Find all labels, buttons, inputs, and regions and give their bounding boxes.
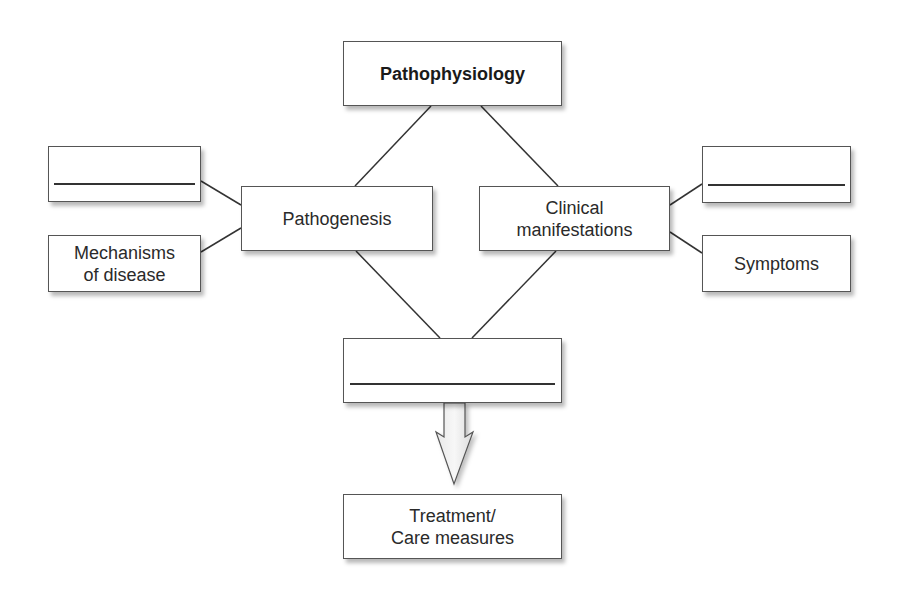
edge-pathophysiology-pathogenesis [355, 106, 431, 186]
mechanisms-label-line1: Mechanisms [74, 242, 175, 264]
right-blank-box [702, 146, 851, 203]
clinical-manifestations-box: Clinical manifestations [479, 186, 670, 251]
treatment-care-measures-box: Treatment/ Care measures [343, 494, 562, 559]
edge-clinical-symptoms [670, 232, 702, 253]
symptoms-box: Symptoms [702, 235, 851, 292]
pathogenesis-box: Pathogenesis [241, 186, 433, 251]
edge-clinical-center [472, 251, 556, 338]
edge-mechanisms-pathogenesis [201, 228, 241, 252]
clinical-label-line1: Clinical [545, 197, 603, 219]
fill-in-blank-line [54, 183, 195, 185]
edge-pathogenesis-center [356, 251, 440, 338]
left-blank-box [48, 146, 201, 202]
down-arrow-icon [436, 403, 473, 484]
symptoms-label: Symptoms [734, 253, 819, 275]
fill-in-blank-line [350, 383, 555, 385]
edge-blank-pathogenesis [201, 181, 241, 205]
clinical-label-line2: manifestations [516, 219, 632, 241]
pathophysiology-box: Pathophysiology [343, 41, 562, 106]
edge-pathophysiology-clinical [481, 106, 558, 186]
mechanisms-label-line2: of disease [83, 264, 165, 286]
treatment-label-line2: Care measures [391, 527, 514, 549]
edge-clinical-blank [670, 184, 702, 205]
pathophysiology-label: Pathophysiology [380, 63, 525, 85]
mechanisms-of-disease-box: Mechanisms of disease [48, 235, 201, 292]
pathogenesis-label: Pathogenesis [282, 208, 391, 230]
treatment-label-line1: Treatment/ [409, 505, 495, 527]
fill-in-blank-line [708, 184, 845, 186]
center-blank-box [343, 338, 562, 403]
